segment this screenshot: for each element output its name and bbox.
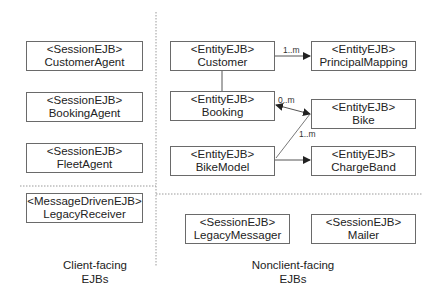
box-customer-agent: <SessionEJB> CustomerAgent — [26, 41, 143, 71]
box-customer: <EntityEJB> Customer — [170, 41, 275, 71]
stereotype-label: <SessionEJB> — [47, 43, 122, 56]
multiplicity-booking-bike: 0..m — [278, 95, 295, 105]
box-legacy-receiver: <MessageDrivenEJB> LegacyReceiver — [26, 193, 143, 223]
ejb-name-label: BikeModel — [196, 161, 250, 174]
ejb-name-label: ChargeBand — [331, 161, 396, 174]
box-bike-model: <EntityEJB> BikeModel — [170, 146, 275, 176]
client-facing-label: Client-facing EJBs — [45, 258, 145, 286]
stereotype-label: <EntityEJB> — [191, 43, 254, 56]
box-fleet-agent: <SessionEJB> FleetAgent — [26, 143, 143, 173]
client-facing-label-line2: EJBs — [45, 272, 145, 286]
ejb-name-label: CustomerAgent — [45, 56, 125, 69]
ejb-name-label: BookingAgent — [49, 107, 121, 120]
stereotype-label: <EntityEJB> — [332, 101, 395, 114]
client-facing-label-line1: Client-facing — [45, 258, 145, 272]
box-principal-mapping: <EntityEJB> PrincipalMapping — [311, 41, 416, 71]
nonclient-facing-label-line2: EJBs — [233, 272, 353, 286]
connector-booking-bike — [276, 105, 310, 114]
box-charge-band: <EntityEJB> ChargeBand — [311, 146, 416, 176]
stereotype-label: <EntityEJB> — [332, 43, 395, 56]
box-legacy-messager: <SessionEJB> LegacyMessager — [185, 214, 290, 244]
ejb-name-label: Customer — [198, 56, 248, 69]
box-mailer: <SessionEJB> Mailer — [311, 214, 416, 244]
ejb-name-label: Mailer — [348, 229, 379, 242]
stereotype-label: <SessionEJB> — [47, 94, 122, 107]
box-booking-agent: <SessionEJB> BookingAgent — [26, 92, 143, 122]
ejb-diagram: 1..m 0..m 1..m <SessionEJB> CustomerAgen… — [0, 0, 443, 299]
stereotype-label: <EntityEJB> — [332, 148, 395, 161]
multiplicity-customer-principal-mapping: 1..m — [283, 45, 300, 55]
stereotype-label: <EntityEJB> — [191, 148, 254, 161]
ejb-name-label: LegacyReceiver — [43, 208, 125, 221]
box-booking: <EntityEJB> Booking — [170, 91, 275, 121]
ejb-name-label: Booking — [202, 106, 244, 119]
ejb-name-label: Bike — [352, 114, 374, 127]
stereotype-label: <SessionEJB> — [326, 216, 401, 229]
ejb-name-label: LegacyMessager — [194, 229, 282, 242]
box-bike: <EntityEJB> Bike — [311, 99, 416, 129]
stereotype-label: <MessageDrivenEJB> — [27, 195, 141, 208]
ejb-name-label: FleetAgent — [57, 158, 113, 171]
stereotype-label: <EntityEJB> — [191, 93, 254, 106]
stereotype-label: <SessionEJB> — [200, 216, 275, 229]
nonclient-facing-label: Nonclient-facing EJBs — [233, 258, 353, 286]
stereotype-label: <SessionEJB> — [47, 145, 122, 158]
nonclient-facing-label-line1: Nonclient-facing — [233, 258, 353, 272]
ejb-name-label: PrincipalMapping — [319, 56, 407, 69]
multiplicity-bike-model-bike: 1..m — [299, 129, 316, 139]
